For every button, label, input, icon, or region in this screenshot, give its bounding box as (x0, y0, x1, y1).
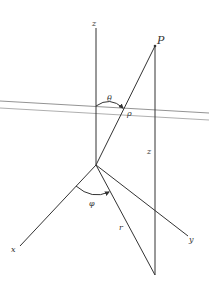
phi-label: φ (89, 199, 95, 208)
r-label: r (119, 223, 124, 232)
y-axis-label: y (188, 235, 194, 244)
plane-line-lower (0, 108, 209, 120)
x-axis-label: x (11, 245, 16, 254)
y-axis (96, 165, 188, 236)
point-p-label: P (156, 34, 165, 47)
z-height-label: z (146, 147, 152, 156)
r-line (96, 165, 155, 275)
phi-arc (76, 186, 109, 195)
z-axis-label: z (91, 19, 97, 28)
rho-label: ρ (126, 109, 132, 118)
theta-label: θ (107, 94, 112, 103)
x-axis (20, 165, 96, 246)
spherical-coordinates-diagram: z P θ ρ z φ r x y (0, 0, 209, 288)
plane-line-upper (0, 101, 209, 113)
